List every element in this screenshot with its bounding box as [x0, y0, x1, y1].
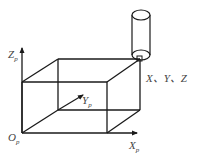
x-axis-label: Xp [128, 139, 140, 154]
y-axis [58, 95, 83, 110]
origin-label: Op [8, 131, 20, 146]
coordinate-diagram: Zp Yp Xp Op X、Y、Z [0, 0, 201, 159]
y-axis-label: Yp [82, 94, 92, 109]
cylinder-tool-icon [132, 10, 150, 60]
z-axis-label: Zp [8, 48, 18, 63]
tool-coordinates-label: X、Y、Z [145, 72, 188, 84]
